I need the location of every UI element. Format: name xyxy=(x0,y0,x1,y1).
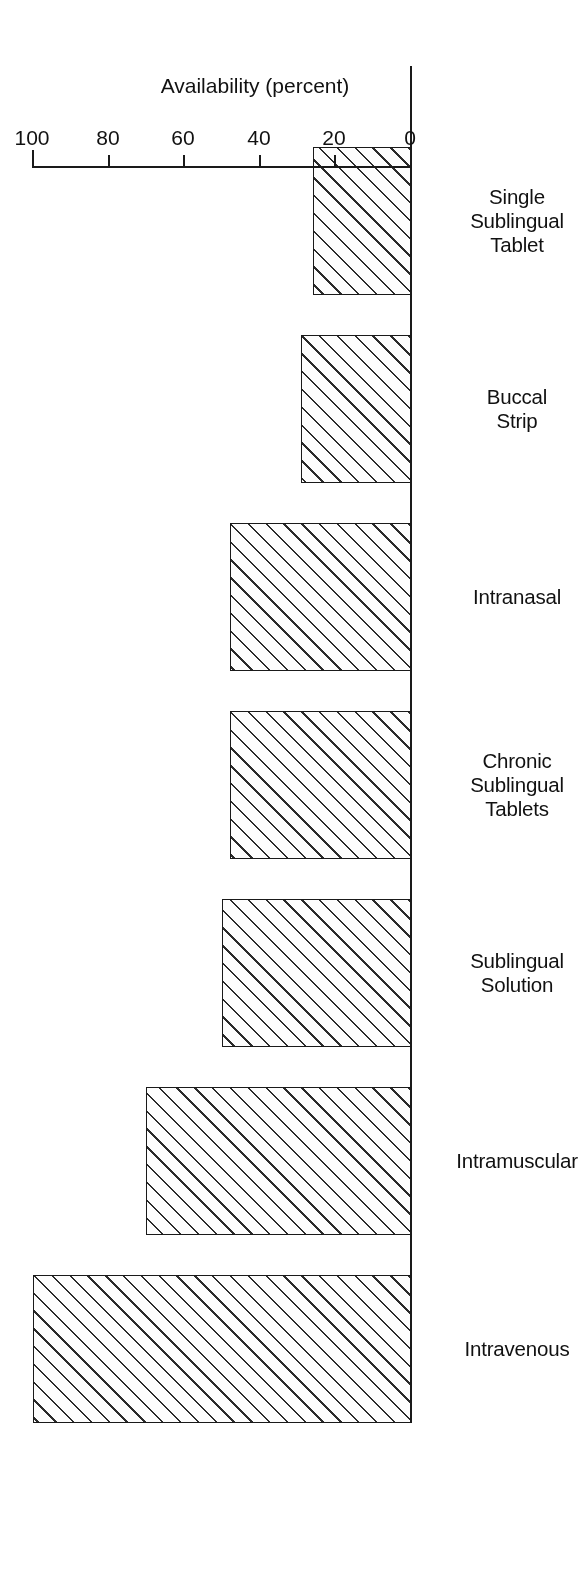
axis-tick-label: 40 xyxy=(229,126,289,150)
value-axis-line xyxy=(32,166,412,168)
axis-tick xyxy=(334,155,336,168)
category-label: Intravenous xyxy=(422,1337,582,1361)
axis-tick xyxy=(410,150,412,168)
category-label: Single Sublingual Tablet xyxy=(422,185,582,257)
category-label: Chronic Sublingual Tablets xyxy=(422,749,582,821)
bar xyxy=(146,1087,411,1235)
axis-tick-label: 60 xyxy=(153,126,213,150)
category-label: Sublingual Solution xyxy=(422,949,582,997)
category-label: Intramuscular xyxy=(422,1149,582,1173)
category-label: Intranasal xyxy=(422,585,582,609)
axis-tick-label: 100 xyxy=(2,126,62,150)
bar xyxy=(230,711,411,859)
axis-tick-label: 20 xyxy=(304,126,364,150)
bar xyxy=(33,1275,411,1423)
bar xyxy=(313,147,411,295)
axis-tick xyxy=(259,155,261,168)
bar xyxy=(301,335,411,483)
axis-tick-label: 80 xyxy=(78,126,138,150)
bar xyxy=(230,523,411,671)
bar xyxy=(222,899,411,1047)
category-label: Buccal Strip xyxy=(422,385,582,433)
axis-tick xyxy=(183,155,185,168)
axis-tick xyxy=(32,150,34,168)
axis-tick-label: 0 xyxy=(380,126,440,150)
value-axis-title: Availability (percent) xyxy=(0,74,510,98)
axis-tick xyxy=(108,155,110,168)
